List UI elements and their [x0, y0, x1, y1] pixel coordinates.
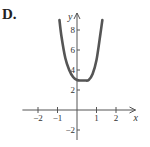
chart: xy−2−112−22468 — [0, 0, 150, 147]
x-tick-label: 2 — [114, 113, 119, 123]
y-tick-label: 2 — [71, 85, 76, 95]
y-tick-label: 8 — [71, 25, 76, 35]
x-axis-label: x — [133, 112, 139, 123]
x-tick-label: −2 — [33, 113, 43, 123]
x-tick-label: 1 — [94, 113, 99, 123]
y-tick-label: 6 — [71, 45, 76, 55]
x-tick-label: −1 — [53, 113, 63, 123]
y-axis-label: y — [67, 11, 73, 22]
y-tick-label: −2 — [65, 125, 75, 135]
curve-curve — [59, 20, 102, 81]
